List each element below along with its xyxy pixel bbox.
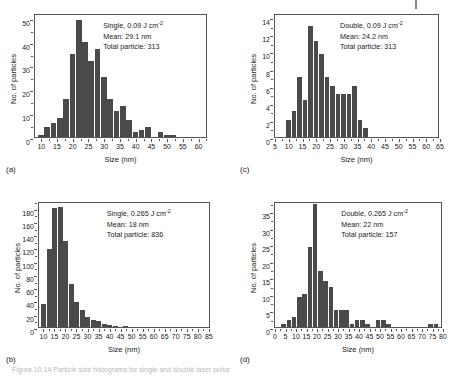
x-tick-label: 55 xyxy=(409,139,417,150)
x-tick-label: 30 xyxy=(334,329,342,340)
x-minor-tick xyxy=(406,139,407,141)
panel-c: 024681012145101520253035404550556065No. … xyxy=(234,0,469,188)
histogram-bar xyxy=(329,287,334,327)
annotation-exponent: -2 xyxy=(158,20,163,26)
histogram-bar xyxy=(88,61,94,137)
annotation-mean: Mean: 22 nm xyxy=(341,220,408,230)
y-minor-tick xyxy=(35,216,37,217)
histogram-bar xyxy=(102,324,107,327)
histogram-bar xyxy=(145,127,151,137)
x-tick-label: 15 xyxy=(303,329,311,340)
y-tick-label: 25 xyxy=(262,246,273,253)
x-tick-label: 20 xyxy=(312,139,320,150)
histogram-bar xyxy=(123,326,128,327)
annotation-exponent: -2 xyxy=(166,208,171,214)
y-minor-tick xyxy=(31,103,33,104)
y-minor-tick xyxy=(271,288,273,289)
annotation-c: Double, 0.09 J cm-2Mean: 24.2 nmTotal pa… xyxy=(340,20,403,53)
x-tick-label: 30 xyxy=(100,139,108,150)
histogram-bar xyxy=(38,135,44,137)
histogram-bar xyxy=(101,77,107,137)
y-tick-label: 2 xyxy=(266,121,273,128)
x-tick-label: 65 xyxy=(161,329,169,340)
annotation-exponent: -2 xyxy=(398,20,403,26)
y-minor-tick xyxy=(35,296,37,297)
histogram-bar xyxy=(318,271,323,327)
x-tick-label: 25 xyxy=(324,329,332,340)
y-tick-label: 160 xyxy=(22,222,37,229)
histogram-bar xyxy=(95,49,101,137)
x-minor-tick xyxy=(419,139,420,141)
histogram-bar xyxy=(107,99,113,137)
x-minor-tick xyxy=(112,139,113,141)
y-tick-label: 8 xyxy=(266,70,273,77)
y-tick-label: 120 xyxy=(22,249,37,256)
y-minor-tick xyxy=(271,79,273,80)
x-tick-label: 40 xyxy=(132,139,140,150)
histogram-bar xyxy=(323,281,328,327)
x-tick-label: 10 xyxy=(40,329,48,340)
x-minor-tick xyxy=(49,139,50,141)
annotation-total: Total particle: 313 xyxy=(103,42,163,52)
x-tick-label: 35 xyxy=(345,329,353,340)
histogram-bar xyxy=(164,135,170,137)
histogram-bar xyxy=(352,86,357,137)
y-tick-label: 10 xyxy=(22,115,33,122)
x-tick-label: 10 xyxy=(285,139,293,150)
histogram-bar xyxy=(376,320,381,327)
y-minor-tick xyxy=(271,130,273,131)
x-axis-label-c: Size (nm) xyxy=(340,156,372,164)
x-minor-tick xyxy=(175,139,176,141)
y-minor-tick xyxy=(271,271,273,272)
x-tick-label: 45 xyxy=(147,139,155,150)
y-minor-tick xyxy=(35,243,37,244)
histogram-bar xyxy=(381,320,386,327)
y-tick-label: 20 xyxy=(262,262,273,269)
histogram-bar xyxy=(41,304,46,327)
annotation-condition: Double, 0.265 J cm-2 xyxy=(341,208,408,220)
y-tick-label: 12 xyxy=(262,36,273,43)
x-tick-label: 25 xyxy=(326,139,334,150)
annotation-a: Single, 0.09 J cm-2Mean: 29.1 nmTotal pa… xyxy=(103,20,163,53)
x-tick-label: 5 xyxy=(273,139,277,150)
x-tick-label: 45 xyxy=(381,139,389,150)
histogram-bar xyxy=(91,320,96,327)
panel-d: 0510152025303505101520253035404550556065… xyxy=(234,186,469,376)
y-tick-label: 15 xyxy=(262,279,273,286)
annotation-total: Total particle: 836 xyxy=(107,230,171,240)
histogram-bar xyxy=(334,310,339,327)
figure-container: 010203040501015202530354045505560No. of … xyxy=(0,0,469,376)
histogram-bar xyxy=(358,120,363,137)
x-tick-label: 60 xyxy=(422,139,430,150)
y-axis-label-c: No. of particles xyxy=(250,54,258,104)
x-tick-label: 60 xyxy=(397,329,405,340)
histogram-bar xyxy=(114,111,120,137)
x-minor-tick xyxy=(96,139,97,141)
histogram-bar xyxy=(336,94,341,137)
histogram-bar xyxy=(133,132,139,137)
x-tick-label: 35 xyxy=(354,139,362,150)
x-tick-label: 55 xyxy=(179,139,187,150)
histogram-bar xyxy=(297,77,302,137)
y-tick-label: 6 xyxy=(266,87,273,94)
histogram-bar xyxy=(297,297,302,327)
annotation-exponent: -2 xyxy=(403,208,408,214)
x-tick-label: 45 xyxy=(366,329,374,340)
y-tick-label: 5 xyxy=(266,312,273,319)
annotation-total: Total particle: 157 xyxy=(341,230,408,240)
x-tick-label: 70 xyxy=(172,329,180,340)
histogram-bar xyxy=(80,310,85,327)
x-tick-label: 40 xyxy=(106,329,114,340)
x-minor-tick xyxy=(159,139,160,141)
histogram-bar xyxy=(350,324,355,327)
x-tick-label: 30 xyxy=(340,139,348,150)
x-tick-label: 5 xyxy=(284,329,288,340)
x-minor-tick xyxy=(296,139,297,141)
histogram-bar xyxy=(341,94,346,137)
histogram-bar xyxy=(120,106,126,137)
x-tick-label: 60 xyxy=(195,139,203,150)
y-tick-label: 35 xyxy=(262,212,273,219)
annotation-total: Total particle: 313 xyxy=(340,42,403,52)
x-minor-tick xyxy=(392,139,393,141)
x-tick-label: 35 xyxy=(116,139,124,150)
